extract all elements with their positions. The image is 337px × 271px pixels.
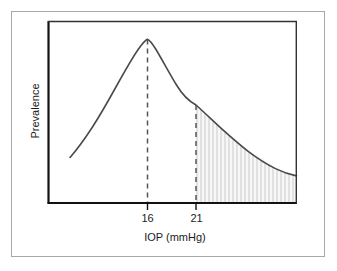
prevalence-curve: [70, 39, 297, 176]
x-axis-title: IOP (mmHg): [105, 231, 245, 243]
x-tick-label-16: 16: [132, 212, 163, 224]
y-axis-title: Prevalence: [29, 71, 41, 151]
x-tick-label-21: 21: [181, 212, 212, 224]
figure-container: 16 21 IOP (mmHg) Prevalence: [0, 0, 337, 271]
